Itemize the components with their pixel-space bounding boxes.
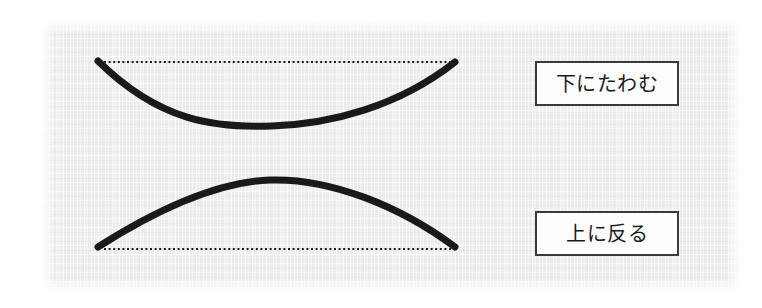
warping-curve [98, 180, 455, 247]
label-sag-text: 下にたわむ [556, 74, 659, 94]
label-box-warp: 上に反る [535, 211, 679, 256]
figure-canvas: 下にたわむ 上に反る [0, 0, 762, 308]
label-warp-text: 上に反る [566, 224, 648, 244]
label-box-sag: 下にたわむ [535, 61, 679, 106]
sagging-curve [98, 61, 455, 126]
curves-illustration [0, 0, 762, 308]
